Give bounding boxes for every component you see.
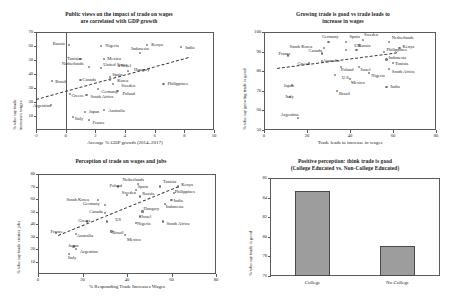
data-point (85, 94, 87, 96)
chart-title: Positive perception: think trade is good… (238, 156, 452, 172)
point-label-france: France (92, 120, 104, 125)
chart-title-line1: Positive perception: think trade is good (238, 158, 452, 165)
point-label-australia: Australia (77, 233, 94, 238)
y-tick (34, 46, 37, 47)
y-tick-label: 100 (248, 29, 261, 34)
chart-title-line2: increase in wages (234, 18, 452, 25)
chart-title: Growing trade is good vs trade leads to … (234, 8, 452, 25)
y-tick-label: 30 (22, 234, 35, 239)
point-label-poland: Poland (123, 91, 136, 96)
data-point (388, 41, 390, 43)
point-label-nigeria: Nigeria (137, 221, 151, 226)
point-label-japan: Japan (284, 83, 294, 88)
y-tick (262, 110, 265, 111)
chart-trade-wages-vs-gdp: Public views on the impact of trade on w… (8, 8, 230, 156)
point-label-kenya: Kenya (181, 182, 193, 187)
chart-positive-perception-by-education: Positive perception: think trade is good… (238, 156, 452, 302)
point-label-mexico: Mexico (127, 237, 141, 242)
y-tick (268, 217, 271, 218)
y-tick-label: 82 (253, 214, 267, 219)
point-label-netherlands: Netherlands (62, 61, 84, 66)
point-label-nigeria: Nigeria (371, 73, 385, 78)
point-label-south-africa: South Africa (167, 221, 190, 226)
data-point (84, 111, 86, 113)
point-label-italy: Italy (286, 94, 294, 99)
point-label-philippines: Philippines (386, 47, 406, 52)
point-label-philippines: Philippines (175, 189, 195, 194)
y-axis-title: % who say growing trade is good (242, 69, 247, 131)
x-tick-label: -2 (27, 133, 45, 138)
point-label-india: India (174, 198, 183, 203)
point-label-australia: Australia (108, 108, 125, 113)
y-tick-label: 70 (248, 88, 261, 93)
y-tick (34, 74, 37, 75)
point-label-canada: Canada (309, 48, 323, 53)
y-tick-label: 86 (253, 175, 267, 180)
point-label-united-states: United States (103, 62, 127, 67)
chart-title: Public views on the impact of trade on w… (8, 8, 230, 25)
point-label-australia: Australia (323, 58, 340, 63)
point-label-canada: Canada (83, 77, 97, 82)
x-tick-label: 60 (163, 277, 181, 282)
data-point (104, 212, 106, 214)
point-label-hungary: Hungary (144, 206, 160, 211)
y-axis-title: % who say trade creates jobs (16, 221, 21, 274)
x-tick-label: 80 (207, 277, 225, 282)
point-label-spain: Spain (112, 72, 122, 77)
point-label-greece: Greece (78, 218, 91, 223)
data-point (385, 58, 387, 60)
point-label-greece: Greece (71, 93, 84, 98)
point-label-italy: Italy (68, 255, 76, 260)
point-label-germany: Germany (83, 201, 100, 206)
y-tick (262, 32, 265, 33)
point-label-india: India (391, 84, 400, 89)
x-tick-label: 2 (86, 133, 104, 138)
plot-area: 5060708090100020406080GermanySpainSweden… (234, 28, 452, 152)
point-label-tunisia: Tunisia (395, 61, 408, 66)
y-tick-label: 40 (20, 71, 33, 76)
point-label-canada: Canada (89, 209, 103, 214)
x-tick-label: 8 (175, 133, 193, 138)
y-tick-label: 76 (253, 273, 267, 278)
point-label-south-africa: South Africa (392, 69, 415, 74)
point-label-spain: Spain (349, 34, 359, 39)
y-tick-label: 20 (22, 246, 35, 251)
y-tick-label: 80 (253, 234, 267, 239)
y-tick (268, 237, 271, 238)
data-point (362, 39, 364, 41)
y-tick-label: 60 (20, 43, 33, 48)
point-label-sweden: Sweden (121, 83, 135, 88)
point-label-france: France (51, 229, 63, 234)
data-point (162, 83, 164, 85)
x-axis-title: Average % GDP growth (2014–2017) (36, 140, 214, 145)
x-axis-title: % Responding Trade Increases Wages (38, 284, 216, 289)
point-label-sweden: Sweden (122, 190, 136, 195)
point-label-brazil: Brazil (55, 79, 66, 84)
y-tick (36, 174, 39, 175)
point-label-indonesia: Indonesia (166, 204, 184, 209)
y-tick-label: 50 (22, 209, 35, 214)
point-label-netherlands: Netherlands (392, 35, 414, 40)
point-label-germany: Germany (322, 34, 339, 39)
chart-title-line1: Perception of trade on wages and jobs (8, 158, 234, 165)
chart-title-line2: (College Educated vs. Non-College Educat… (238, 165, 452, 172)
x-tick-label: 0 (29, 277, 47, 282)
y-tick-label: 10 (22, 259, 35, 264)
point-label-sweden: Sweden (364, 32, 378, 37)
plot-area: 1020304050607080020406080KenyaNetherland… (8, 170, 234, 298)
bar-category-label: College (283, 280, 343, 285)
point-label-france: France (278, 51, 290, 56)
y-tick-label: 40 (22, 221, 35, 226)
chart-title: Perception of trade on wages and jobs (8, 156, 234, 165)
point-label-israel: Israel (141, 214, 151, 219)
point-label-russia: Russia (358, 43, 370, 48)
data-point (139, 52, 141, 54)
x-tick-label: 10 (205, 133, 223, 138)
data-point (68, 44, 70, 46)
point-label-japan: Japan (89, 109, 99, 114)
point-label-philippines: Philippines (168, 81, 188, 86)
x-tick-label: 20 (74, 277, 92, 282)
point-label-spain: Spain (138, 184, 148, 189)
point-label-indonesia: Indonesia (389, 55, 407, 60)
y-tick (268, 256, 271, 257)
